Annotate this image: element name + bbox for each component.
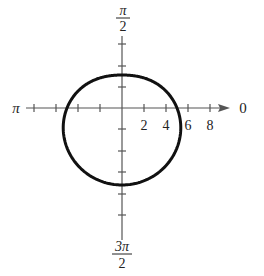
- svg-text:3π: 3π: [114, 239, 130, 254]
- polar-graph: 2 4 6 8 0 π π 2 3π 2: [0, 0, 264, 276]
- angle-label-3pi-over-2: 3π 2: [112, 239, 132, 271]
- tick-label-8: 8: [207, 118, 214, 133]
- tick-label-4: 4: [163, 118, 170, 133]
- svg-text:π: π: [119, 3, 127, 18]
- angle-label-pi: π: [12, 100, 20, 116]
- svg-text:2: 2: [119, 256, 126, 271]
- angle-label-pi-over-2: π 2: [116, 3, 130, 34]
- tick-label-6: 6: [185, 118, 192, 133]
- angle-label-0: 0: [239, 100, 247, 116]
- svg-text:2: 2: [120, 19, 127, 34]
- tick-label-2: 2: [141, 118, 148, 133]
